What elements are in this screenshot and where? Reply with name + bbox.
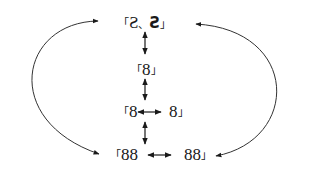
- open-bracket: 「: [110, 149, 121, 161]
- node-pair-left: 「8: [118, 103, 138, 121]
- node-double-left-text: 88: [121, 145, 138, 164]
- open-bracket: 「: [118, 17, 129, 29]
- node-double-right-text: 88: [184, 145, 201, 164]
- left-curved-arrow: [32, 21, 99, 154]
- node-pair-left-text: 8: [129, 102, 138, 121]
- node-double-right: 88」: [184, 146, 212, 164]
- node-single: 「8」: [131, 61, 162, 79]
- close-bracket: 」: [178, 106, 189, 118]
- node-top: 「S、S」: [118, 14, 171, 33]
- top-left-s: S: [129, 14, 138, 32]
- close-bracket: 」: [201, 149, 212, 161]
- right-curved-arrow: [196, 24, 277, 156]
- open-bracket: 「: [131, 64, 142, 76]
- node-pair-right-text: 8: [169, 102, 178, 121]
- close-bracket: 」: [151, 64, 162, 76]
- close-bracket: 」: [160, 18, 171, 30]
- node-single-text: 8: [142, 60, 151, 79]
- top-separator: 、: [138, 18, 149, 30]
- node-double-left: 「88: [110, 146, 138, 164]
- top-right-s: S: [149, 14, 160, 32]
- open-bracket: 「: [118, 106, 129, 118]
- node-pair-right: 8」: [169, 103, 189, 121]
